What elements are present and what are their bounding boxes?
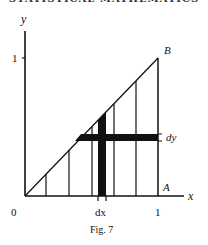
triangle-integration-diagram: y 1 B dy A x 0 dx 1 Fig. 7 bbox=[0, 0, 208, 245]
vertical-strip-dx bbox=[98, 112, 106, 196]
dx-label: dx bbox=[95, 206, 107, 218]
dy-label: dy bbox=[166, 131, 177, 143]
figure-caption: Fig. 7 bbox=[90, 224, 113, 235]
y-tick-label: 1 bbox=[12, 52, 18, 64]
x-tick-label: 1 bbox=[155, 206, 161, 218]
origin-label: 0 bbox=[11, 206, 17, 218]
y-axis-label: y bbox=[20, 12, 27, 26]
point-a-label: A bbox=[162, 181, 170, 193]
x-axis-label: x bbox=[187, 189, 194, 203]
point-b-label: B bbox=[164, 44, 171, 56]
horizontal-strip-dy bbox=[75, 134, 158, 141]
